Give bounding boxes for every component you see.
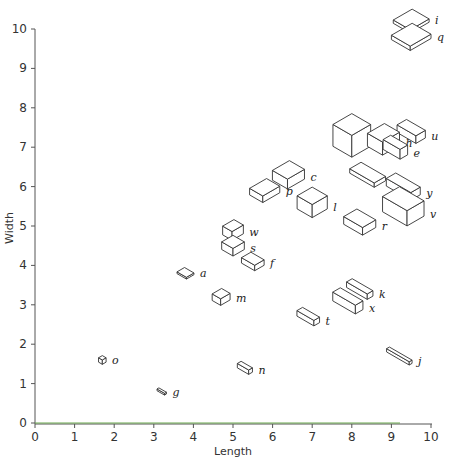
x-tick-label: 0 [31,430,39,444]
y-tick-label: 3 [19,298,27,312]
y-tick-label: 4 [19,258,27,272]
box-glyph-q: q [391,23,444,50]
y-tick-label: 1 [19,377,27,391]
box-label: a [200,267,207,280]
x-tick-label: 3 [150,430,158,444]
box-glyph-m: m [212,288,246,305]
box-glyph-a: a [177,267,207,280]
box-glyph-f: f [241,252,276,271]
box-label: q [437,31,444,44]
box-glyph-g: g [157,386,179,399]
box-label: k [379,288,386,301]
y-axis-title: Width [3,212,16,244]
x-axis-title: Length [214,445,252,458]
box-label: p [286,185,293,198]
box-label: j [415,355,422,368]
box-label: f [269,257,276,270]
x-tick-label: 1 [71,430,79,444]
x-tick-label: 4 [190,430,198,444]
box-label: i [435,14,439,27]
box-label: g [172,386,179,399]
x-tick-label: 2 [110,430,118,444]
box-label: u [431,130,438,143]
box-label: r [382,220,388,233]
y-tick-label: 7 [19,140,27,154]
x-ticks: 012345678910 [31,424,438,444]
box-label: n [258,364,265,377]
box-glyph-o: o [99,354,120,367]
box-label: w [249,226,259,239]
axes: 012345678910 012345678910 Length Width [3,22,439,458]
box-label: y [425,187,433,200]
y-tick-label: 2 [19,337,27,351]
y-tick-label: 6 [19,180,27,194]
x-tick-label: 8 [348,430,356,444]
box-label: o [112,354,119,367]
box-label: x [369,302,376,315]
box-glyph-j: j [387,347,422,368]
x-tick-label: 10 [423,430,438,444]
box-label: t [326,315,331,328]
box-glyph-c: c [272,161,316,189]
data-boxes: iqudhecbyplvrwsfakmxtjong [99,9,445,399]
box-label: v [430,208,437,221]
x-tick-label: 7 [308,430,316,444]
y-tick-label: 5 [19,219,27,233]
box-scatter-chart: iqudhecbyplvrwsfakmxtjong 012345678910 0… [0,0,454,462]
x-tick-label: 6 [269,430,277,444]
box-glyph-r: r [344,209,388,235]
y-tick-label: 9 [19,61,27,75]
box-label: l [333,201,337,214]
x-tick-label: 5 [229,430,237,444]
box-label: m [236,292,246,305]
box-glyph-w: w [223,220,260,241]
y-tick-label: 8 [19,101,27,115]
x-tick-label: 9 [388,430,396,444]
box-label: c [310,171,316,184]
box-glyph-u: u [397,119,438,143]
y-tick-label: 0 [19,416,27,430]
box-glyph-l: l [297,187,337,217]
box-glyph-t: t [297,307,331,327]
y-tick-label: 10 [12,22,27,36]
box-glyph-n: n [237,361,265,377]
box-label: e [414,147,421,160]
